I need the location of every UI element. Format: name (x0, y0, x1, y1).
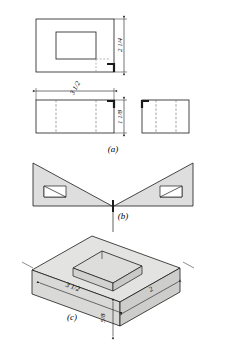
front-view (36, 100, 114, 133)
part-label-b: (b) (118, 211, 129, 221)
dim-label-top-height: 2 1/4 (116, 37, 124, 52)
technical-drawing-canvas: 2 1/4 3 1/2 1 1/8 (a) (0, 0, 226, 345)
part-label-a: (a) (108, 144, 119, 154)
dim-label-iso-height: 5/8 (99, 313, 107, 322)
dim-label-front-height: 1 1/8 (116, 109, 124, 124)
top-view (36, 19, 114, 72)
figure-sheet: 2 1/4 3 1/2 1 1/8 (a) (0, 0, 226, 345)
front-view-outline (36, 100, 114, 133)
top-view-recess-opening (56, 32, 96, 59)
part-label-c: (c) (67, 312, 77, 322)
side-view (142, 100, 189, 133)
side-view-outline (142, 100, 189, 133)
